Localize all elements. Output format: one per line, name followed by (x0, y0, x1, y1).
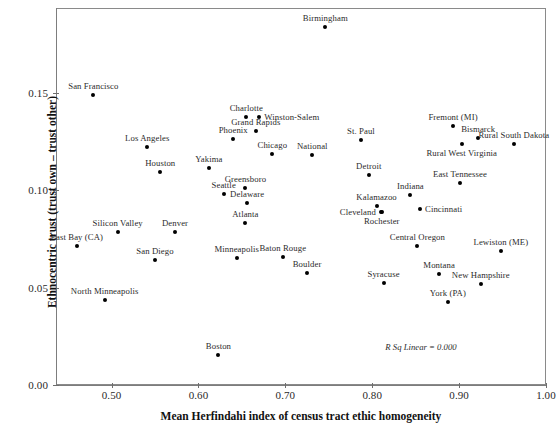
plot-area-frame (56, 8, 546, 385)
data-point (153, 258, 157, 262)
data-point-label: Detroit (356, 161, 381, 171)
x-tick-mark (112, 383, 113, 388)
y-tick-label: 0.10 (6, 184, 48, 196)
x-tick-label: 0.70 (276, 389, 296, 401)
data-point-label: Houston (145, 158, 175, 168)
data-point-label: Rural South Dakota (478, 130, 549, 140)
data-point (75, 244, 79, 248)
data-point (222, 192, 226, 196)
y-tick-mark (53, 385, 59, 386)
x-tick-label: 0.90 (449, 389, 469, 401)
data-point-label: Silicon Valley (93, 218, 143, 228)
data-point (91, 93, 95, 97)
data-point (243, 221, 247, 225)
data-point-label: North Minneapolis (71, 286, 139, 296)
data-point (460, 142, 464, 146)
data-point (231, 137, 235, 141)
data-point-label: Montana (423, 260, 455, 270)
data-point (310, 153, 314, 157)
data-point-label: Rochester (364, 216, 400, 226)
data-point-label: St. Paul (347, 126, 375, 136)
data-point-label: Delaware (230, 189, 264, 199)
data-point (323, 25, 327, 29)
data-point (216, 353, 220, 357)
data-point (173, 230, 177, 234)
data-point-label: Charlotte (230, 103, 263, 113)
scatter-plot-chart: 0.500.600.700.800.901.00 0.000.050.100.1… (0, 0, 556, 433)
data-point-label: San Francisco (68, 81, 118, 91)
data-point-label: Los Angeles (125, 133, 169, 143)
data-point-label: Syracuse (367, 269, 399, 279)
data-point-label: Indiana (397, 181, 424, 191)
data-point-label: Boston (206, 341, 231, 351)
data-point (380, 210, 384, 214)
data-point (235, 256, 239, 260)
x-tick-mark (459, 383, 460, 388)
data-point (158, 170, 162, 174)
data-point-label: Phoenix (219, 125, 248, 135)
data-point-label: Minneapolis (214, 244, 259, 254)
data-point (359, 138, 363, 142)
data-point-label: Fremont (MI) (428, 112, 477, 122)
y-tick-label: 0.05 (6, 282, 48, 294)
data-point (145, 145, 149, 149)
r-squared-annotation: R Sq Linear = 0.000 (385, 342, 456, 352)
data-point (512, 142, 516, 146)
y-tick-label: 0.00 (6, 379, 48, 391)
data-point (305, 271, 309, 275)
data-point-label: Cincinnati (425, 204, 462, 214)
x-tick-mark (546, 383, 547, 388)
data-point-label: Atlanta (232, 209, 258, 219)
y-axis-title: Ethnocentric trust (trust own – trust ot… (46, 32, 58, 372)
data-point (254, 129, 258, 133)
data-point-label: Birmingham (303, 13, 348, 23)
data-point-label: Denver (162, 218, 188, 228)
data-point-label: East Tennessee (433, 169, 487, 179)
data-point (281, 255, 285, 259)
data-point (415, 244, 419, 248)
data-point (367, 173, 371, 177)
data-point (451, 124, 455, 128)
data-point (437, 272, 441, 276)
data-point-label: York (PA) (430, 288, 466, 298)
data-point (479, 282, 483, 286)
data-point (207, 166, 211, 170)
data-point (245, 201, 249, 205)
x-tick-label: 0.50 (102, 389, 122, 401)
data-point-label: Central Oregon (390, 232, 445, 242)
x-tick-mark (372, 383, 373, 388)
data-point-label: East Bay (CA) (51, 232, 103, 242)
x-axis-title: Mean Herfindahi index of census tract et… (56, 410, 546, 422)
data-point-label: National (297, 141, 328, 151)
data-point-label: Lewiston (ME) (474, 237, 529, 247)
x-axis-line (56, 385, 546, 386)
x-tick-label: 0.60 (189, 389, 209, 401)
data-point-label: Kalamazoo (356, 192, 396, 202)
data-point (116, 230, 120, 234)
data-point-label: Yakima (195, 154, 222, 164)
data-point (446, 300, 450, 304)
data-point-label: Chicago (258, 140, 288, 150)
data-point (382, 281, 386, 285)
x-tick-label: 0.80 (362, 389, 382, 401)
data-point-label: San Diego (136, 246, 173, 256)
data-point (458, 181, 462, 185)
data-point (418, 207, 422, 211)
x-tick-label: 1.00 (536, 389, 556, 401)
y-tick-label: 0.15 (6, 87, 48, 99)
x-tick-mark (285, 383, 286, 388)
data-point-label: New Hampshire (452, 270, 510, 280)
data-point (408, 193, 412, 197)
data-point-label: Baton Rouge (259, 243, 306, 253)
data-point (499, 249, 503, 253)
data-point-label: Rural West Virginia (426, 148, 497, 158)
data-point (270, 152, 274, 156)
data-point (103, 298, 107, 302)
data-point-label: Boulder (293, 259, 322, 269)
x-tick-mark (198, 383, 199, 388)
